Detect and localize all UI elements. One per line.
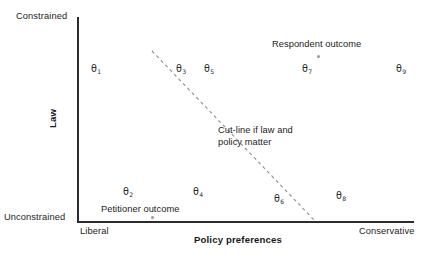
data-point-theta-2: θ2 [123,186,133,197]
x-axis-right-tick-label: Conservative [359,226,414,236]
data-point-theta-7: θ7 [302,63,312,74]
petitioner-outcome-dot [151,216,154,219]
theta-glyph: θ [176,63,182,74]
theta-glyph: θ [204,63,210,74]
respondent-outcome-dot [317,55,320,58]
x-axis-title: Policy preferences [194,234,282,245]
theta-glyph: θ [336,190,342,201]
y-axis-bottom-tick-label: Unconstrained [4,212,65,222]
cut-line-annotation: Cut-line if law and policy matter [218,124,293,148]
theta-glyph: θ [396,63,402,74]
theta-glyph: θ [274,193,280,204]
data-point-theta-1: θ1 [91,63,101,74]
y-axis-top-tick-label: Constrained [16,11,67,21]
petitioner-outcome-label: Petitioner outcome [101,203,179,215]
data-point-theta-9: θ9 [396,63,406,74]
theta-glyph: θ [193,186,199,197]
theta-subscript: 1 [97,68,101,75]
cut-line-annotation-line-1: Cut-line if law and [218,124,293,136]
x-axis-line [77,221,414,223]
theta-subscript: 2 [129,191,133,198]
respondent-outcome-label: Respondent outcome [272,38,361,50]
theta-glyph: θ [91,63,97,74]
y-axis-line [77,17,79,223]
theta-subscript: 6 [280,198,284,205]
x-axis-left-tick-label: Liberal [80,226,109,236]
theta-subscript: 8 [342,195,346,202]
figure-scatter-law-policy: Constrained Unconstrained Liberal Conser… [0,0,426,259]
y-axis-title: Law [47,99,58,139]
data-point-theta-8: θ8 [336,190,346,201]
cut-line-annotation-line-2: policy matter [218,136,293,148]
theta-subscript: 4 [199,191,203,198]
theta-glyph: θ [123,186,129,197]
theta-subscript: 5 [210,68,214,75]
theta-subscript: 9 [402,68,406,75]
data-point-theta-4: θ4 [193,186,203,197]
theta-subscript: 3 [182,68,186,75]
theta-subscript: 7 [308,68,312,75]
data-point-theta-6: θ6 [274,193,284,204]
theta-glyph: θ [302,63,308,74]
data-point-theta-5: θ5 [204,63,214,74]
data-point-theta-3: θ3 [176,63,186,74]
